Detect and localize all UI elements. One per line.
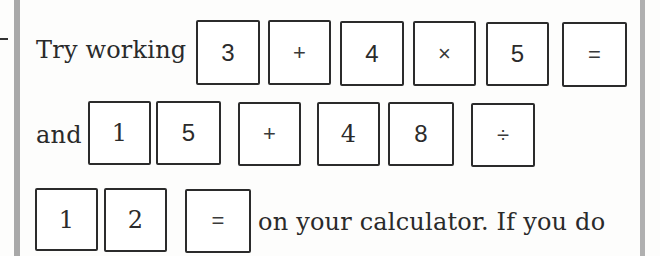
key-divide: ÷ [471,103,535,167]
key-label: 4 [365,40,378,68]
key-label: 5 [511,40,524,68]
key-1: 1 [88,101,151,165]
key-label: 8 [414,120,427,148]
key-label: 2 [128,206,143,234]
equals-icon: = [212,208,225,234]
divide-icon: ÷ [497,122,509,148]
key-plus: + [238,102,301,166]
plus-icon: + [263,121,276,147]
key-equals: = [562,22,627,87]
key-4: 4 [317,102,380,166]
key-plus: + [268,20,331,85]
left-margin-bar [14,0,20,256]
margin-dash [0,38,8,40]
key-label: 5 [182,119,195,147]
key-3: 3 [196,20,260,85]
right-margin-bar [640,0,645,256]
key-multiply: × [413,21,476,86]
line3-trail-text: on your calculator. If you do [258,210,605,234]
key-equals: = [185,189,251,253]
multiply-icon: × [438,41,451,67]
key-8: 8 [388,102,454,166]
key-label: 1 [59,206,74,234]
document-page: Try working 3 + 4 × 5 = and 1 5 + 4 8 ÷ … [0,0,660,256]
key-1: 1 [35,188,98,251]
key-5: 5 [156,101,221,165]
equals-icon: = [588,42,601,68]
key-label: 1 [112,119,127,147]
key-5: 5 [486,22,549,86]
key-2: 2 [104,188,167,252]
key-label: 4 [341,120,356,148]
key-4: 4 [340,21,404,86]
line2-lead-text: and [36,123,82,147]
key-label: 3 [221,39,234,67]
line1-lead-text: Try working [36,38,186,62]
plus-icon: + [293,40,306,66]
